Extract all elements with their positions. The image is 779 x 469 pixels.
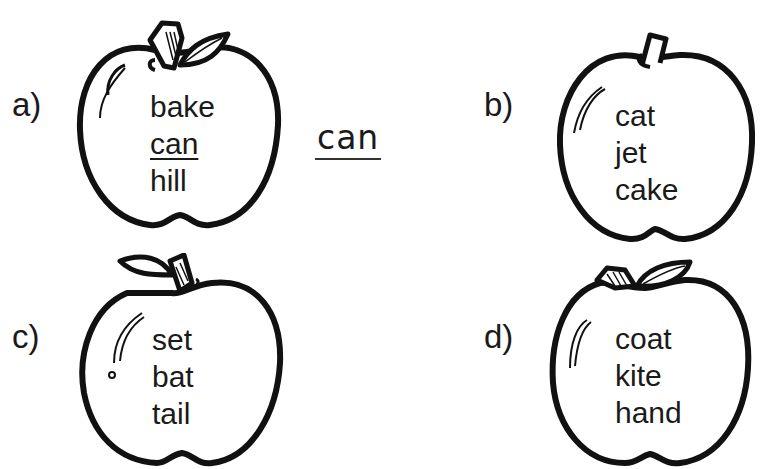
word-b-3: cake [615, 171, 678, 208]
question-label-b: b) [484, 88, 513, 121]
word-d-1: coat [615, 320, 682, 357]
word-a-3: hill [150, 162, 215, 199]
question-label-a: a) [12, 88, 41, 121]
answer-a: can [315, 120, 381, 160]
word-b-1: cat [615, 97, 678, 134]
word-d-3: hand [615, 394, 682, 431]
word-d-2: kite [615, 357, 682, 394]
word-b-2: jet [615, 134, 678, 171]
apple-c: set bat tail [72, 253, 292, 468]
apple-b: cat jet cake [550, 25, 760, 245]
word-c-3: tail [152, 395, 194, 432]
question-label-c: c) [12, 320, 40, 353]
word-c-1: set [152, 321, 194, 358]
apple-a: bake can hill [70, 20, 290, 235]
word-a-2-underlined: can [150, 125, 215, 162]
question-label-d: d) [484, 320, 513, 353]
apple-d: coat kite hand [545, 258, 760, 468]
word-c-2: bat [152, 358, 194, 395]
word-a-1: bake [150, 88, 215, 125]
